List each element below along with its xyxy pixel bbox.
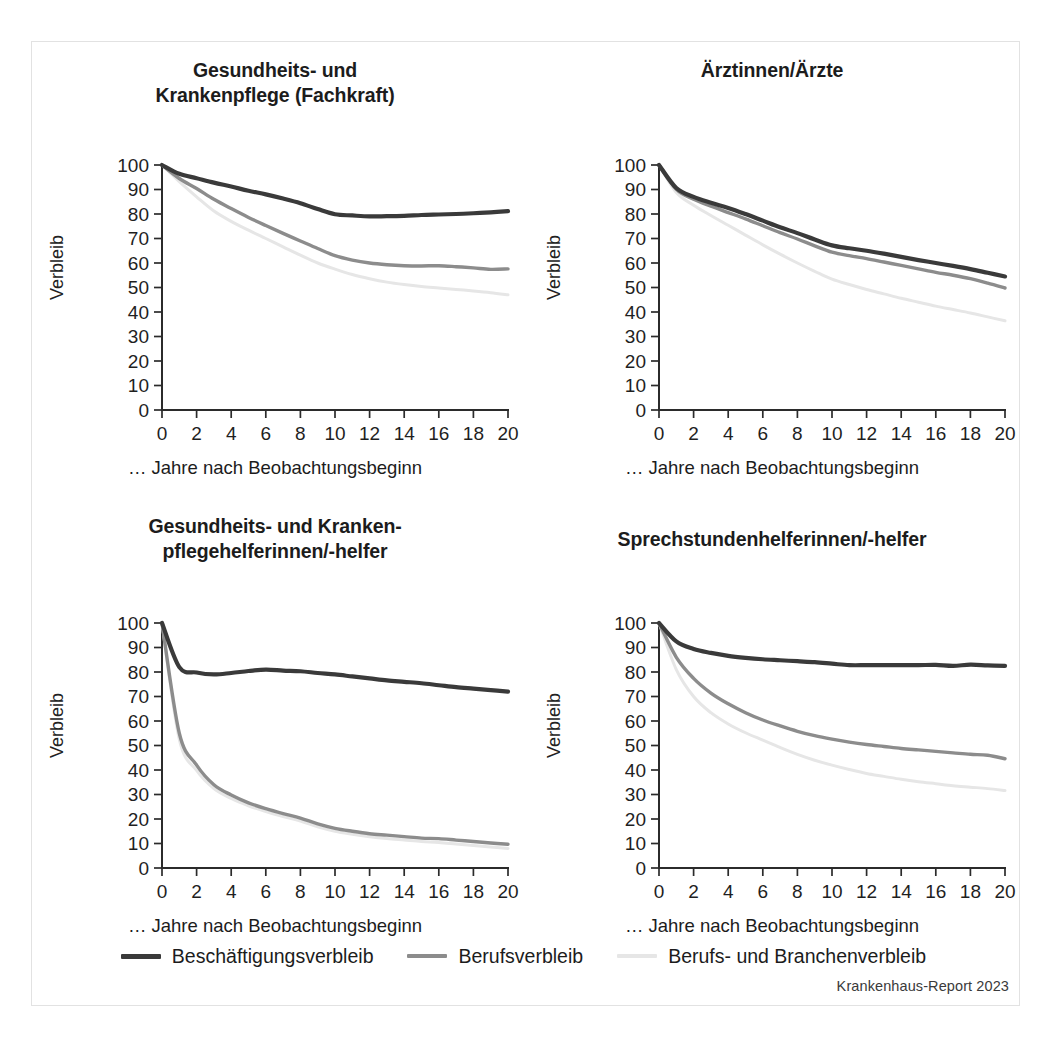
svg-text:16: 16	[925, 423, 946, 444]
svg-text:10: 10	[324, 423, 345, 444]
svg-text:40: 40	[128, 302, 149, 323]
y-axis-label: Verbleib	[544, 671, 565, 781]
svg-text:70: 70	[625, 228, 646, 249]
x-axis-label: … Jahre nach Beobachtungsbeginn	[30, 915, 520, 937]
legend-item-beschaeftigungsverbleib[interactable]: Beschäftigungsverbleib	[121, 945, 374, 968]
y-axis-label: Verbleib	[47, 671, 68, 781]
svg-text:20: 20	[497, 881, 518, 902]
svg-text:2: 2	[191, 881, 202, 902]
source-credit: Krankenhaus-Report 2023	[837, 978, 1009, 994]
x-axis-label: … Jahre nach Beobachtungsbeginn	[527, 915, 1017, 937]
svg-text:6: 6	[758, 423, 769, 444]
svg-text:18: 18	[463, 423, 484, 444]
svg-text:0: 0	[138, 858, 149, 879]
svg-text:2: 2	[688, 881, 699, 902]
svg-text:90: 90	[128, 637, 149, 658]
chart-panel-sprechstundenhelferinnen-helfer: Sprechstundenhelferinnen/-helfer Verblei…	[527, 510, 1017, 945]
svg-text:30: 30	[625, 326, 646, 347]
chart-legend: Beschäftigungsverbleib Berufsverbleib Be…	[0, 938, 1047, 974]
svg-text:20: 20	[625, 351, 646, 372]
svg-text:0: 0	[157, 881, 168, 902]
x-axis-label: … Jahre nach Beobachtungsbeginn	[527, 457, 1017, 479]
svg-text:10: 10	[625, 833, 646, 854]
chart-title: Sprechstundenhelferinnen/-helfer	[527, 527, 1017, 552]
series-line-berufs-und-branchenverbleib	[659, 623, 1005, 791]
svg-text:80: 80	[128, 204, 149, 225]
svg-text:8: 8	[295, 423, 306, 444]
legend-line-swatch-icon	[407, 954, 447, 958]
series-line-besch-ftigungsverbleib	[162, 623, 508, 692]
svg-text:10: 10	[821, 423, 842, 444]
svg-text:12: 12	[856, 881, 877, 902]
svg-text:6: 6	[261, 423, 272, 444]
svg-text:8: 8	[792, 881, 803, 902]
svg-text:50: 50	[128, 735, 149, 756]
svg-text:10: 10	[128, 833, 149, 854]
series-line-besch-ftigungsverbleib	[659, 623, 1005, 666]
series-line-besch-ftigungsverbleib	[659, 165, 1005, 276]
svg-text:16: 16	[925, 881, 946, 902]
svg-text:50: 50	[625, 277, 646, 298]
svg-text:20: 20	[994, 881, 1015, 902]
svg-text:30: 30	[128, 326, 149, 347]
svg-text:16: 16	[428, 881, 449, 902]
legend-line-swatch-icon	[617, 954, 657, 958]
series-line-berufs-und-branchenverbleib	[162, 623, 508, 848]
legend-label: Beschäftigungsverbleib	[172, 945, 374, 968]
svg-text:90: 90	[128, 179, 149, 200]
y-axis-label: Verbleib	[47, 213, 68, 323]
series-line-berufsverbleib	[659, 623, 1005, 759]
svg-text:20: 20	[994, 423, 1015, 444]
svg-text:14: 14	[891, 881, 913, 902]
svg-text:0: 0	[635, 400, 646, 421]
svg-text:70: 70	[128, 686, 149, 707]
svg-text:60: 60	[128, 253, 149, 274]
plot-area: 010203040506070809010002468101214161820	[100, 107, 520, 487]
y-axis-label: Verbleib	[544, 213, 565, 323]
svg-text:2: 2	[191, 423, 202, 444]
svg-text:70: 70	[128, 228, 149, 249]
chart-title: Ärztinnen/Ärzte	[527, 58, 1017, 83]
svg-text:0: 0	[654, 881, 665, 902]
legend-item-berufsverbleib[interactable]: Berufsverbleib	[407, 945, 583, 968]
svg-text:100: 100	[117, 155, 149, 176]
svg-text:0: 0	[654, 423, 665, 444]
svg-text:80: 80	[625, 662, 646, 683]
svg-text:80: 80	[128, 662, 149, 683]
svg-text:20: 20	[497, 423, 518, 444]
svg-text:10: 10	[324, 881, 345, 902]
svg-text:12: 12	[359, 423, 380, 444]
svg-text:60: 60	[625, 711, 646, 732]
svg-text:70: 70	[625, 686, 646, 707]
svg-text:50: 50	[128, 277, 149, 298]
plot-area: 010203040506070809010002468101214161820	[100, 565, 520, 945]
chart-panel-gesundheits-und-krankenpflege-fachkraft: Gesundheits- und Krankenpflege (Fachkraf…	[30, 52, 520, 487]
chart-title: Gesundheits- und Kranken- pflegehelferin…	[30, 514, 520, 564]
svg-text:18: 18	[960, 881, 981, 902]
svg-text:20: 20	[128, 351, 149, 372]
svg-text:10: 10	[821, 881, 842, 902]
svg-text:0: 0	[635, 858, 646, 879]
chart-panel-gesundheits-und-krankenpflegehelferinnen-helfer: Gesundheits- und Kranken- pflegehelferin…	[30, 510, 520, 945]
svg-text:40: 40	[625, 302, 646, 323]
legend-line-swatch-icon	[121, 954, 161, 959]
svg-text:20: 20	[128, 809, 149, 830]
figure-root: Gesundheits- und Krankenpflege (Fachkraf…	[0, 0, 1047, 1042]
svg-text:90: 90	[625, 637, 646, 658]
svg-text:12: 12	[359, 881, 380, 902]
legend-item-berufs-und-branchenverbleib[interactable]: Berufs- und Branchenverbleib	[617, 945, 926, 968]
series-line-berufs-und-branchenverbleib	[659, 165, 1005, 321]
svg-text:4: 4	[226, 423, 237, 444]
legend-label: Berufsverbleib	[458, 945, 583, 968]
chart-panel-aerztinnen-aerzte: Ärztinnen/Ärzte Verbleib 010203040506070…	[527, 52, 1017, 487]
svg-text:30: 30	[128, 784, 149, 805]
svg-text:16: 16	[428, 423, 449, 444]
svg-text:60: 60	[128, 711, 149, 732]
svg-text:80: 80	[625, 204, 646, 225]
svg-text:4: 4	[226, 881, 237, 902]
svg-text:40: 40	[625, 760, 646, 781]
chart-title: Gesundheits- und Krankenpflege (Fachkraf…	[30, 58, 520, 108]
svg-text:0: 0	[138, 400, 149, 421]
svg-text:18: 18	[960, 423, 981, 444]
svg-text:8: 8	[792, 423, 803, 444]
